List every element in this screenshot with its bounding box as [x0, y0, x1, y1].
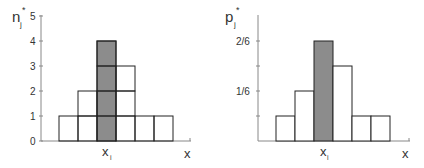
right-y-ticks: 1/6 2/6 — [236, 36, 260, 116]
left-chart: n j * 0 1 2 3 4 5 — [12, 5, 191, 161]
left-xi-label: x — [102, 144, 109, 159]
svg-text:3: 3 — [30, 61, 36, 72]
left-xlabel: x — [184, 146, 191, 161]
right-xlabel: x — [402, 146, 409, 161]
right-bars — [276, 41, 390, 141]
left-ylabel-sub: j — [19, 20, 22, 29]
svg-text:4: 4 — [30, 36, 36, 47]
figure: n j * 0 1 2 3 4 5 — [0, 0, 424, 168]
svg-text:j: j — [233, 20, 236, 29]
left-bars — [59, 41, 173, 141]
svg-text:2: 2 — [30, 86, 36, 97]
right-ylabel: p — [225, 8, 233, 25]
svg-text:5: 5 — [30, 11, 36, 22]
right-xi-label: x — [320, 144, 327, 159]
svg-text:i: i — [327, 154, 329, 161]
svg-text:i: i — [110, 154, 112, 161]
right-chart: p j * 1/6 2/6 x i x — [225, 5, 410, 161]
svg-text:2/6: 2/6 — [236, 36, 250, 47]
svg-text:1: 1 — [30, 111, 36, 122]
svg-text:1/6: 1/6 — [236, 86, 250, 97]
svg-text:*: * — [236, 5, 240, 15]
svg-text:0: 0 — [30, 136, 36, 147]
left-ylabel-sup: * — [22, 5, 26, 15]
right-highlight-bar — [314, 41, 333, 141]
